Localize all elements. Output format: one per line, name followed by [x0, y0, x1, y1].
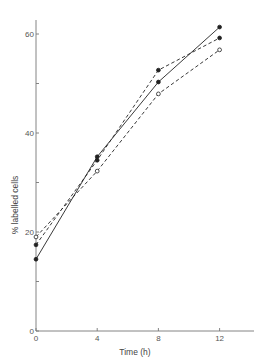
- x-axis-label: Time (h): [119, 347, 150, 357]
- filled-circle-marker: [218, 36, 222, 40]
- filled-circle-marker: [95, 158, 99, 162]
- open-circle-marker: [218, 48, 222, 52]
- filled-circle-marker: [34, 243, 38, 247]
- filled-circle-marker: [157, 68, 161, 72]
- filled-circle-marker: [34, 257, 38, 261]
- line-chart: 020406004812 Time (h) % labelled cells: [0, 0, 263, 361]
- axes: 020406004812: [25, 20, 254, 343]
- series-series-1-solid-filled: [34, 25, 221, 261]
- x-tick-label: 8: [156, 334, 161, 343]
- filled-circle-marker: [218, 25, 222, 29]
- y-tick-label: 20: [25, 228, 34, 237]
- open-circle-marker: [157, 92, 161, 96]
- x-tick-label: 12: [215, 334, 224, 343]
- series-series-3-dashed-open: [34, 48, 221, 239]
- x-tick-label: 4: [95, 334, 100, 343]
- open-circle-marker: [95, 169, 99, 173]
- x-tick-label: 0: [34, 334, 39, 343]
- filled-circle-marker: [157, 80, 161, 84]
- series-line: [36, 27, 220, 259]
- series-line: [36, 50, 220, 237]
- series-group: [34, 25, 221, 261]
- y-tick-label: 40: [25, 129, 34, 138]
- y-axis-label: % labelled cells: [10, 176, 20, 235]
- open-circle-marker: [34, 235, 38, 239]
- y-tick-label: 60: [25, 30, 34, 39]
